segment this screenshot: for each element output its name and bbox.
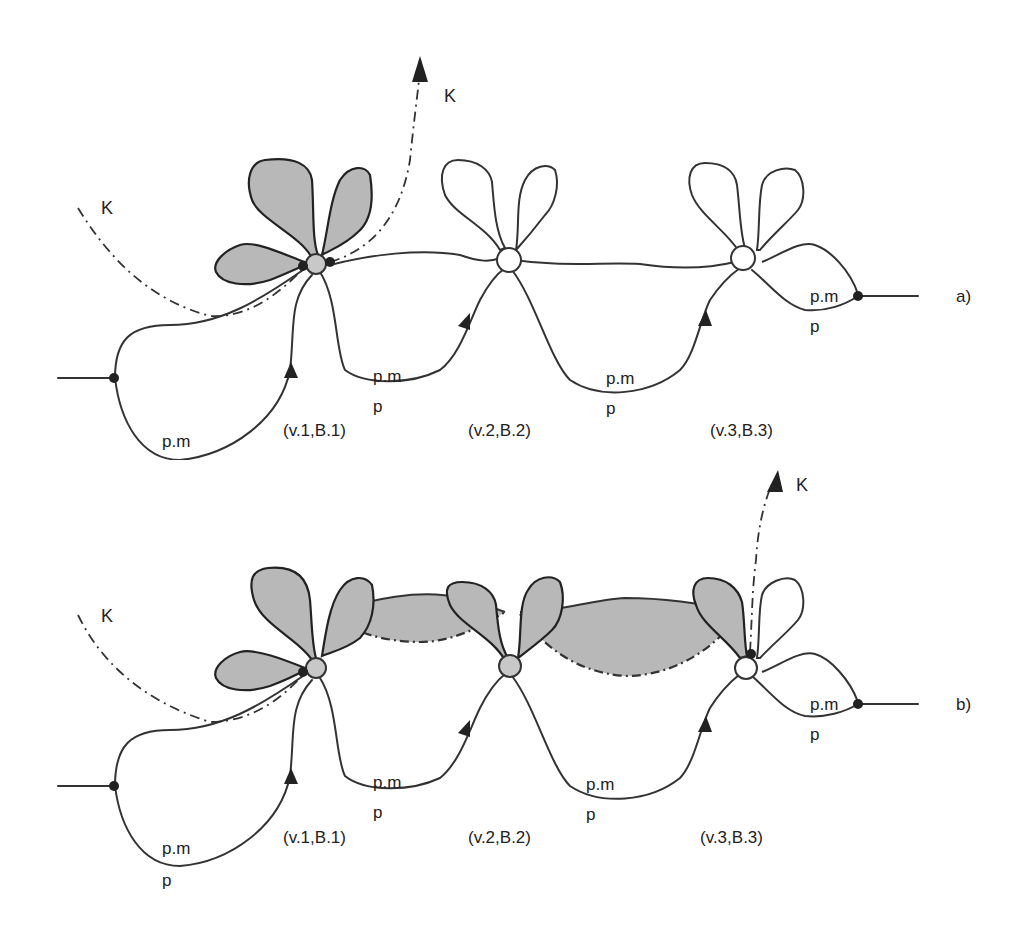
edge-label-bottom: p	[162, 871, 171, 890]
edge-label-top: p.m	[162, 839, 190, 858]
panel-b-background	[40, 460, 1026, 932]
edge-label-top: p.m	[373, 773, 401, 792]
endpoint-left-dot	[109, 781, 119, 791]
vertex-v2-hub	[499, 655, 521, 677]
k-label-left: K	[101, 606, 113, 626]
endpoint-right-dot	[853, 699, 863, 709]
vertex-label-v3: (v.3,B.3)	[700, 828, 763, 847]
figure-panel-b: K K p.m p p.m p p.m p p.m p (v.1,B.1) (v…	[0, 0, 1026, 932]
vertex-v1-hub	[306, 658, 326, 678]
vertex-v3-hub	[735, 657, 757, 679]
vertex-v1-dot	[298, 667, 308, 677]
panel-label-b: b)	[956, 695, 971, 714]
edge-label-top: p.m	[586, 775, 614, 794]
edge-label-bottom: p	[373, 803, 382, 822]
edge-label-bottom: p	[586, 805, 595, 824]
vertex-label-v2: (v.2,B.2)	[468, 828, 531, 847]
k-label-top: K	[796, 475, 808, 495]
edge-label-bottom: p	[810, 725, 819, 744]
vertex-v3-dot	[746, 649, 756, 659]
edge-label-top: p.m	[810, 695, 838, 714]
vertex-label-v1: (v.1,B.1)	[283, 828, 346, 847]
